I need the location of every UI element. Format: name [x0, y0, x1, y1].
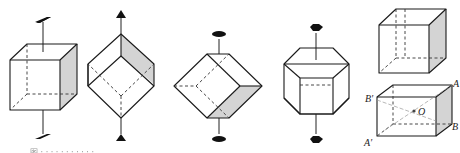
label-A: A — [452, 78, 460, 89]
panel-cube-4fold — [10, 17, 77, 139]
label-O: O — [418, 106, 425, 117]
panel-cube-plain — [379, 9, 446, 73]
panel-cube-3fold — [88, 10, 154, 141]
symmetry-diagram: O A B B′ A′ — [0, 0, 460, 153]
threefold-axis-top-icon — [116, 10, 126, 18]
twofold-axis-bottom-icon — [212, 136, 226, 142]
sixfold-axis-top-icon — [310, 24, 323, 31]
fourfold-axis-bottom-icon — [35, 134, 51, 139]
center-point-O — [412, 109, 415, 112]
label-B-prime: B′ — [365, 93, 374, 104]
figure-caption: 图 · · · · · · · · · · · — [30, 146, 94, 153]
panel-cube-hexagonal — [284, 24, 349, 143]
panel-cube-2fold — [174, 31, 262, 142]
label-B: B — [452, 121, 458, 132]
sixfold-axis-bottom-icon — [310, 136, 323, 143]
panel-cube-center-inversion: O A B B′ A′ — [363, 78, 460, 148]
label-A-prime: A′ — [363, 137, 373, 148]
twofold-axis-top-icon — [212, 31, 226, 37]
threefold-axis-bottom-icon — [116, 134, 126, 141]
